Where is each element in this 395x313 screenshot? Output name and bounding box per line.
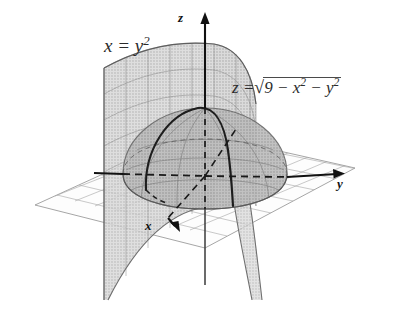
sphere-eq-equals: = — [243, 78, 254, 97]
cylinder-eq-equals: = — [117, 35, 130, 56]
z-axis-arrowhead — [200, 12, 209, 24]
cylinder-eq-exponent: 2 — [143, 33, 149, 48]
three-d-figure — [0, 0, 395, 313]
cylinder-equation-label: x = y2 — [104, 33, 150, 57]
sphere-eq-y-exponent: 2 — [334, 76, 340, 89]
sphere-equation-label: z =√9 − x2 − y2 — [232, 76, 341, 98]
sphere-eq-nine: 9 — [264, 78, 273, 97]
sphere-eq-y: y — [326, 78, 334, 97]
sphere-eq-z: z — [232, 78, 239, 97]
z-axis-label: z — [178, 10, 183, 26]
sphere-eq-x-exponent: 2 — [300, 76, 306, 89]
cylinder-eq-x: x — [104, 35, 112, 56]
y-axis-negative — [94, 173, 123, 174]
sphere-eq-radicand: 9 − x2 − y2 — [263, 77, 341, 97]
cylinder-eq-y: y — [135, 35, 143, 56]
sphere-eq-minus-2: − — [310, 78, 321, 97]
x-axis-label: x — [145, 218, 152, 234]
y-axis-label: y — [337, 176, 343, 192]
sphere-eq-minus-1: − — [277, 78, 288, 97]
